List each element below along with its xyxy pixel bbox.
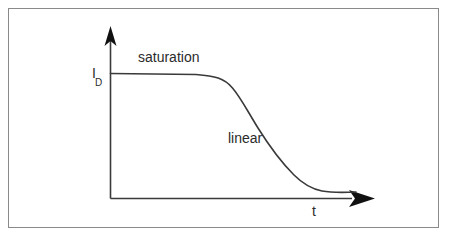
annotation-linear: linear	[228, 131, 262, 145]
plot-area	[0, 0, 451, 241]
annotation-saturation: saturation	[138, 50, 199, 64]
y-axis-label: I D	[92, 66, 96, 80]
x-axis-label: t	[312, 204, 316, 218]
figure-canvas: I D t saturation linear	[0, 0, 451, 241]
y-axis-label-subscript: D	[95, 78, 102, 88]
